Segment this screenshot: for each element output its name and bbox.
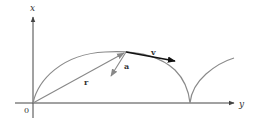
cycloid-curve xyxy=(33,52,234,103)
origin-label: 0 xyxy=(24,106,29,115)
velocity-vector-label: v xyxy=(150,47,156,57)
vertical-axis-label: x xyxy=(30,3,35,13)
cycloid-diagram: x y 0 r v a xyxy=(0,0,254,123)
horizontal-axis-label: y xyxy=(238,99,245,109)
acceleration-vector-label: a xyxy=(124,61,129,71)
position-vector-label: r xyxy=(84,77,89,87)
